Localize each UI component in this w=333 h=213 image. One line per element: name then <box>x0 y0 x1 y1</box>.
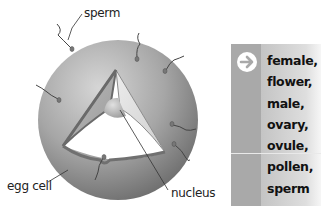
word-item: ovary, <box>267 114 318 135</box>
word-item: flower, <box>267 71 318 92</box>
word-bank: female, flower, male, ovary, ovule, poll… <box>231 44 321 206</box>
word-item: male, <box>267 93 318 114</box>
arrow-right-circle-icon <box>236 51 258 73</box>
sperm-label: sperm <box>84 6 120 20</box>
egg-cell-label: egg cell <box>7 179 52 193</box>
sperm-leader-line <box>68 14 82 40</box>
word-item: ovule, <box>267 135 318 156</box>
egg-cell-diagram: sperm egg cell nucleus <box>0 0 230 213</box>
word-item: female, <box>267 50 318 71</box>
word-item: sperm <box>267 178 318 199</box>
word-list: female, flower, male, ovary, ovule, poll… <box>267 50 318 199</box>
word-item: pollen, <box>267 156 318 177</box>
nucleus-label: nucleus <box>171 186 215 200</box>
